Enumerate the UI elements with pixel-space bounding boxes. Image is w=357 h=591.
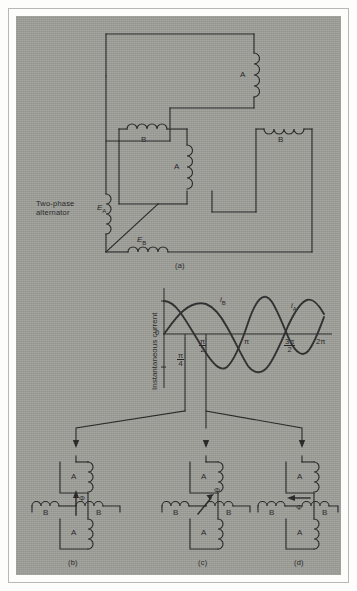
series-label-i-b: iB: [220, 295, 226, 306]
alternator-label-line1: Two-phase: [36, 199, 75, 208]
panel-label-a: (a): [175, 261, 185, 270]
subpanel-c-coil-left: B: [173, 508, 178, 517]
figure-plate: A B A B Two-phase alternator EA EB (a): [16, 16, 341, 575]
circuit-coil-label-b-right: B: [278, 135, 283, 144]
emf-a-subscript: A: [102, 208, 106, 214]
emf-a-label: EA: [97, 203, 106, 214]
subpanel-b-flux-symbol: Φ: [79, 494, 85, 503]
panel-label-c: (c): [198, 558, 207, 567]
subpanels-svg: [16, 16, 341, 575]
series-label-i-a-subscript: A: [293, 306, 297, 312]
chart-x-tick-pi: π: [244, 337, 249, 346]
fraction-3pi-2: 3π 2: [284, 338, 295, 354]
fraction-pi-4-numerator: π: [177, 352, 184, 360]
panel-label-b: (b): [68, 558, 78, 567]
emf-b-subscript: B: [142, 240, 146, 246]
circuit-coil-label-a-middle: A: [174, 162, 179, 171]
chart-x-tick-pi-over-2: π 2: [199, 336, 206, 354]
subpanel-c-coil-top: A: [201, 472, 206, 481]
circuit-coil-label-a-top: A: [240, 70, 245, 79]
fraction-3pi-2-denominator: 2: [284, 345, 295, 354]
subpanel-b-coil-left: B: [43, 508, 48, 517]
leader-arrow-c: [203, 440, 209, 448]
fraction-3pi-2-numerator: 3π: [284, 338, 295, 346]
subpanel-d-coil-bottom: A: [297, 528, 302, 537]
alternator-label-line2: alternator: [36, 208, 70, 217]
subpanel-c-flux-symbol: Φ: [214, 486, 220, 495]
subpanel-c-coil-right: B: [226, 508, 231, 517]
alternator-label: Two-phase alternator: [36, 199, 75, 217]
series-label-i-a: iA: [291, 301, 297, 312]
subpanel-d-coil-left: B: [269, 508, 274, 517]
figure-page: A B A B Two-phase alternator EA EB (a): [0, 0, 357, 591]
leader-arrow-b: [73, 440, 79, 448]
subpanel-d-coil-top: A: [297, 472, 302, 481]
series-label-i-b-subscript: B: [222, 300, 226, 306]
subpanel-c-coil-bottom: A: [201, 528, 206, 537]
fraction-pi-4: π 4: [177, 352, 184, 368]
chart-x-tick-3pi-over-2: 3π 2: [284, 336, 295, 354]
chart-x-tick-pi-over-4: π 4: [177, 350, 184, 368]
emf-b-label: EB: [137, 235, 146, 246]
subpanel-d-flux-symbol: Φ: [296, 503, 302, 512]
fraction-pi-4-denominator: 4: [177, 359, 184, 368]
fraction-pi-2: π 2: [199, 338, 206, 354]
fraction-pi-2-denominator: 2: [199, 345, 206, 354]
chart-x-tick-2pi: 2π: [316, 337, 325, 346]
subpanel-b-coil-right: B: [96, 508, 101, 517]
fraction-pi-2-numerator: π: [199, 338, 206, 346]
flux-arrow-d: [287, 495, 295, 501]
subpanel-b-coil-top: A: [71, 472, 76, 481]
subpanel-b-coil-bottom: A: [71, 528, 76, 537]
leader-arrow-d: [299, 440, 305, 448]
chart-y-axis-label: Instantaneous current: [150, 313, 159, 390]
subpanel-d-coil-right: B: [322, 508, 327, 517]
circuit-coil-label-b-middle: B: [141, 135, 146, 144]
panel-label-d: (d): [294, 558, 304, 567]
chart-y-tick-zero: 0: [155, 328, 159, 337]
flux-arrow-c: [206, 494, 214, 500]
